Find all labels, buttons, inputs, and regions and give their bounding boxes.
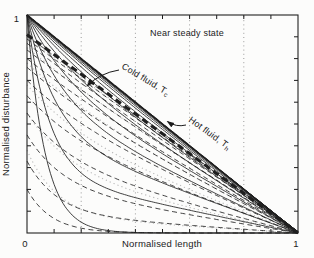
plot-svg: Near steady state Cold fluid, Tc Hot flu…: [0, 0, 314, 258]
near-steady-state-label: Near steady state: [150, 28, 224, 38]
intermediate-dotted-curve: [27, 113, 298, 233]
cold-fluid-dashed-curve: [27, 161, 298, 233]
cold-fluid-label: Cold fluid, Tc: [119, 61, 171, 98]
y-tick-label-1: 1: [14, 13, 19, 24]
cold-fluid-dashed-group: [27, 35, 298, 233]
cold-fluid-dashed-curve: [27, 96, 298, 233]
figure: Near steady state Cold fluid, Tc Hot flu…: [0, 0, 314, 258]
hot-annotation-arrow: [168, 122, 187, 126]
cold-fluid-dashed-curve: [27, 113, 298, 233]
hot-fluid-solid-curve: [27, 15, 298, 233]
x-tick-label-0: 0: [22, 238, 27, 249]
y-axis-title: Normalised disturbance: [0, 72, 11, 176]
hot-fluid-label: Hot fluid, Th: [186, 115, 233, 153]
hot-fluid-solid-group: [27, 15, 298, 233]
intermediate-dotted-curve: [27, 150, 298, 233]
curves-layer: [27, 15, 298, 233]
x-axis-title: Normalised length: [122, 238, 202, 249]
x-tick-label-1: 1: [293, 238, 298, 249]
